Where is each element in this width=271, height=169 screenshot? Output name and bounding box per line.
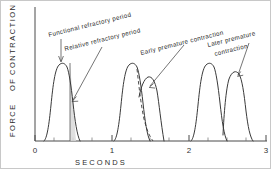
x-tick-label-3: 3 bbox=[264, 146, 269, 155]
x-axis-title: SECONDS bbox=[75, 158, 127, 167]
curve-early-premature-contraction bbox=[139, 77, 164, 141]
x-tick-label-0: 0 bbox=[33, 146, 38, 155]
x-tick-label-1: 1 bbox=[110, 146, 115, 155]
curve-normal-contraction-2 bbox=[114, 63, 150, 141]
curve-later-premature-contraction bbox=[223, 72, 253, 141]
y-axis-title-of: OF bbox=[8, 78, 17, 91]
curve-normal-contraction-3 bbox=[191, 63, 227, 141]
contraction-chart: 0 1 2 3 SECONDS FORCE OF CONTRACTION bbox=[1, 1, 271, 169]
leader-relative-refractory bbox=[73, 47, 102, 100]
y-axis-title-contraction: CONTRACTION bbox=[8, 4, 17, 76]
figure-container: 0 1 2 3 SECONDS FORCE OF CONTRACTION bbox=[0, 0, 271, 169]
y-axis-title-force: FORCE bbox=[8, 103, 17, 137]
arrowhead-relative-refractory bbox=[72, 97, 78, 102]
x-tick-label-2: 2 bbox=[187, 146, 192, 155]
